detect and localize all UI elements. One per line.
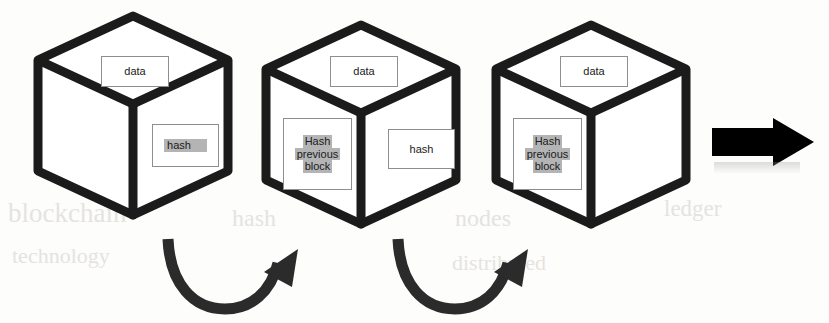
label-line: hash: [164, 139, 207, 152]
label-line: data: [122, 65, 147, 78]
block-3-left-label: Hash previous block: [513, 118, 582, 190]
block-3-top-label: data: [560, 56, 628, 87]
label-line: data: [351, 65, 376, 78]
block-2-right-label: hash: [388, 129, 455, 169]
block-2-top-label: data: [330, 56, 398, 87]
label-line: block: [303, 160, 333, 173]
curved-arrow-1: [168, 239, 298, 309]
label-line: Hash: [303, 135, 333, 148]
continuation-arrow: [712, 118, 814, 166]
curved-arrow-2: [398, 239, 528, 309]
blockchain-diagram: blockchain technology hash nodes distrib…: [0, 0, 829, 323]
block-1-cube: [38, 16, 228, 215]
block-1-top-label: data: [101, 56, 169, 87]
label-line: previous: [525, 148, 571, 161]
label-line: previous: [295, 148, 341, 161]
label-line: data: [581, 65, 606, 78]
label-line: Hash: [533, 135, 563, 148]
label-line: block: [533, 160, 563, 173]
label-line: hash: [408, 143, 436, 156]
block-2-left-label: Hash previous block: [283, 118, 352, 190]
block-1-right-label: hash: [152, 124, 219, 167]
